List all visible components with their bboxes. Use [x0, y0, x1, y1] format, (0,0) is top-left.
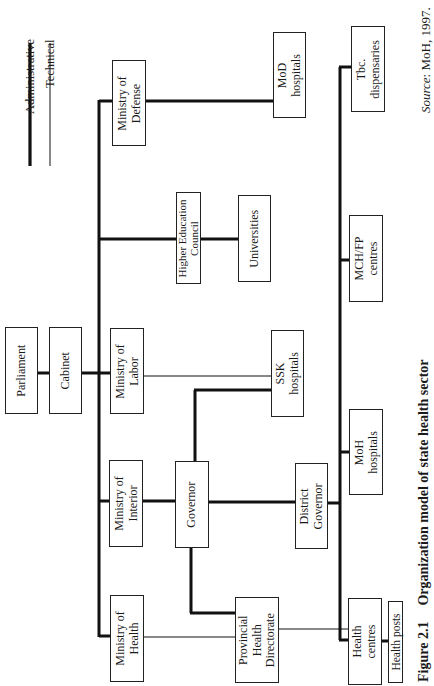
node-parliament-label: Parliament — [15, 345, 29, 397]
node-ssk-hospitals: SSK hospitals — [271, 330, 304, 417]
node-ministry-of-health-label: Ministry of Health — [114, 611, 141, 665]
node-mod-hospitals-label: MoD hospitals — [276, 54, 303, 97]
node-cabinet-label: Cabinet — [59, 352, 73, 389]
node-moh-hospitals-label: MoH hospitals — [353, 431, 380, 474]
node-moh-hospitals: MoH hospitals — [349, 409, 383, 495]
legend-administrative-text: Administrative — [23, 39, 37, 114]
node-ssk-hospitals-label: SSK hospitals — [274, 352, 301, 395]
node-district-governor-label: District Governor — [298, 483, 325, 529]
node-mch-fp-centres: MCH/FP centres — [349, 215, 383, 302]
source-label: Source — [418, 77, 433, 113]
node-mod-hospitals: MoD hospitals — [273, 32, 306, 118]
node-district-governor: District Governor — [295, 463, 328, 549]
node-health-posts: Health posts — [388, 601, 403, 683]
legend-technical-label: Technical — [43, 40, 58, 88]
node-higher-education-council: Higher Education Council — [176, 192, 201, 284]
node-tbc-dispensaries: Tbc. dispensaries — [351, 26, 385, 112]
node-provincial-health-directorate-label: Provincial Health Directorate — [237, 613, 278, 667]
source-text: : MoH, 1997. — [418, 7, 433, 77]
node-cabinet: Cabinet — [49, 327, 82, 414]
node-ministry-of-defense-label: Ministry of Defense — [116, 76, 143, 130]
node-tbc-dispensaries-label: Tbc. dispensaries — [355, 40, 382, 99]
figure-number: Figure 2.1 — [416, 622, 431, 682]
node-ministry-of-interior-label: Ministry of Interior — [113, 476, 140, 530]
legend-technical-text: Technical — [43, 40, 57, 88]
node-higher-education-council-label: Higher Education Council — [177, 199, 200, 277]
node-ministry-of-labor: Ministry of Labor — [110, 328, 144, 414]
node-governor: Governor — [175, 461, 209, 548]
node-health-centres: Health centres — [348, 598, 382, 685]
legend-administrative-label: Administrative — [23, 39, 38, 114]
node-health-centres-label: Health centres — [352, 625, 379, 659]
node-parliament: Parliament — [5, 327, 38, 414]
figure-title: Organization model of state health secto… — [416, 359, 431, 605]
node-health-posts-label: Health posts — [390, 613, 402, 670]
node-universities-label: Universities — [248, 210, 262, 268]
node-ministry-of-labor-label: Ministry of Labor — [114, 344, 141, 398]
node-mch-fp-centres-label: MCH/FP centres — [353, 236, 380, 280]
node-governor-label: Governor — [185, 482, 199, 528]
node-ministry-of-defense: Ministry of Defense — [112, 60, 146, 146]
figure-caption: Figure 2.1Organization model of state he… — [416, 359, 432, 682]
node-universities: Universities — [238, 195, 271, 282]
node-provincial-health-directorate: Provincial Health Directorate — [235, 597, 279, 683]
node-ministry-of-interior: Ministry of Interior — [109, 460, 143, 547]
node-ministry-of-health: Ministry of Health — [110, 595, 144, 682]
source-note: Source: MoH, 1997. — [418, 7, 434, 113]
